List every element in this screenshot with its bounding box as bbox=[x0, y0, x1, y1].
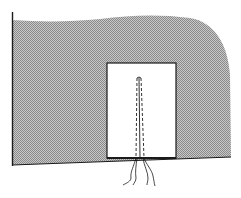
fabric-illustration bbox=[0, 0, 241, 198]
diagram bbox=[0, 0, 241, 198]
placket-rectangle bbox=[107, 63, 176, 158]
thread-ends bbox=[123, 158, 155, 186]
